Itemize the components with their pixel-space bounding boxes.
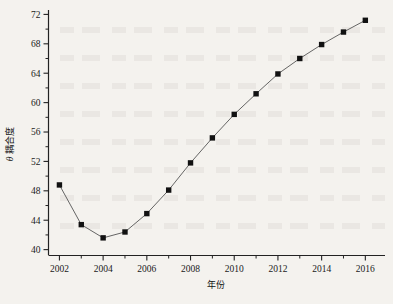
x-tick-label: 2004 (94, 264, 113, 274)
data-point-marker (253, 91, 258, 96)
chart-svg: 404448525660646872 200220042006200820102… (0, 0, 393, 304)
x-axis-tick-labels: 20022004200620082010201220142016 (50, 264, 375, 274)
data-point-marker (275, 71, 280, 76)
y-tick-label: 68 (31, 39, 41, 49)
y-axis-title-group: 耦合度 θ (4, 127, 15, 162)
line-chart-figure: 404448525660646872 200220042006200820102… (0, 0, 393, 304)
data-point-marker (79, 222, 84, 227)
data-point-marker (122, 229, 127, 234)
data-point-marker (166, 187, 171, 192)
data-point-marker (341, 29, 346, 34)
data-point-marker (232, 112, 237, 117)
y-tick-label: 52 (31, 157, 41, 167)
series-markers-coupling-degree (57, 18, 368, 241)
data-point-marker (363, 18, 368, 23)
x-tick-label: 2006 (137, 264, 156, 274)
x-tick-label: 2010 (225, 264, 244, 274)
y-tick-label: 64 (31, 69, 41, 79)
x-tick-label: 2002 (50, 264, 69, 274)
data-point-marker (188, 160, 193, 165)
y-tick-label: 72 (31, 10, 41, 20)
x-axis-title: 年份 (207, 279, 225, 290)
y-tick-label: 44 (31, 216, 41, 226)
data-point-marker (144, 211, 149, 216)
y-axis-title-symbol: θ (5, 156, 15, 161)
y-tick-label: 40 (31, 245, 41, 255)
data-point-marker (100, 235, 105, 240)
data-point-marker (57, 182, 62, 187)
data-point-marker (297, 56, 302, 61)
y-axis-major-ticks (44, 14, 49, 249)
x-tick-label: 2012 (268, 264, 287, 274)
data-point-marker (319, 42, 324, 47)
y-tick-label: 60 (31, 98, 41, 108)
x-tick-label: 2014 (312, 264, 331, 274)
series-line-coupling-degree (59, 20, 365, 238)
x-tick-label: 2016 (356, 264, 375, 274)
x-tick-label: 2008 (181, 264, 200, 274)
y-tick-label: 56 (31, 127, 41, 137)
y-tick-label: 48 (31, 186, 41, 196)
data-point-marker (210, 135, 215, 140)
y-axis-tick-labels: 404448525660646872 (31, 10, 41, 255)
y-axis-title-text: 耦合度 (4, 127, 15, 154)
